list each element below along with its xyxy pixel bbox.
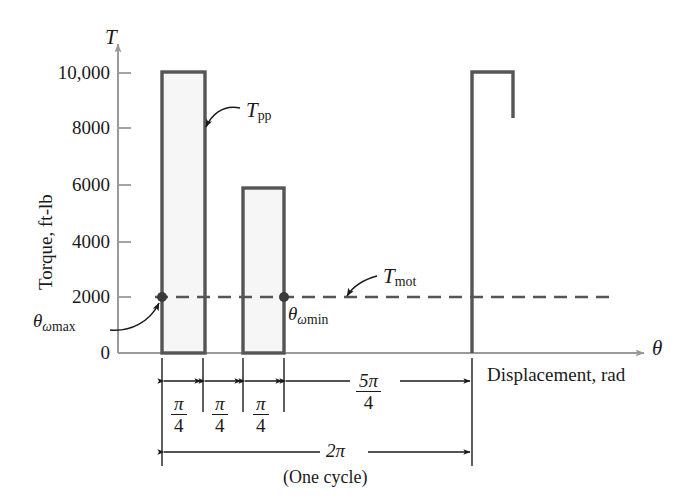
dim-label-seg3: π 4	[253, 394, 269, 436]
tpp-leader-arrow	[206, 107, 240, 127]
theta-omega-max-label: θωmax	[33, 311, 76, 334]
theta-wmax-theta: θ	[33, 310, 42, 331]
marker-theta-omega-min	[279, 292, 289, 302]
bar-pulse-2	[243, 188, 284, 353]
y-tick-label-2000: 2000	[18, 287, 110, 306]
dim-seg3-numerator: π	[253, 394, 269, 415]
theta-wmin-theta: θ	[288, 303, 297, 324]
dim-label-seg4: 5π 4	[356, 371, 381, 413]
theta-wmin-omega: ω	[297, 312, 307, 327]
bar-pulse-1	[162, 72, 205, 353]
tmot-label: Tmot	[383, 266, 416, 289]
marker-theta-omega-max	[157, 292, 167, 302]
y-tick-label-0: 0	[18, 343, 110, 362]
y-axis-symbol: T	[105, 27, 117, 48]
theta-wmin-sub: min	[307, 312, 328, 327]
dim-seg1-numerator: π	[171, 394, 187, 415]
tmot-symbol: T	[383, 264, 395, 288]
tmot-leader-arrow	[347, 276, 377, 296]
tpp-subscript: pp	[258, 108, 272, 123]
dim-label-seg2: π 4	[212, 394, 228, 436]
bar-pulse-3-partial	[472, 72, 513, 353]
x-axis-title: Displacement, rad	[487, 365, 625, 384]
tpp-label: Tpp	[246, 100, 272, 123]
dim-label-seg1: π 4	[171, 394, 187, 436]
dim-seg1-denominator: 4	[171, 415, 187, 435]
dim-label-one-cycle: (One cycle)	[283, 468, 367, 486]
y-tick-label-10000: 10,000	[18, 63, 110, 82]
dim-label-total: 2π	[326, 441, 345, 460]
tpp-symbol: T	[246, 98, 258, 122]
dim-seg2-denominator: 4	[212, 415, 228, 435]
dim-seg3-denominator: 4	[253, 415, 269, 435]
dimension-extension-lines	[162, 358, 472, 466]
torque-displacement-figure: T θ Torque, ft-lb Displacement, rad 10,0…	[0, 0, 686, 502]
y-tick-label-6000: 6000	[18, 175, 110, 194]
theta-wmax-sub: max	[52, 319, 76, 334]
x-axis-symbol: θ	[652, 338, 662, 359]
dim-seg4-numerator: 5π	[356, 371, 381, 392]
y-tick-label-8000: 8000	[18, 118, 110, 137]
y-tick-label-4000: 4000	[18, 232, 110, 251]
theta-omega-min-label: θωmin	[288, 304, 328, 327]
theta-wmax-omega: ω	[42, 319, 52, 334]
dim-seg4-denominator: 4	[356, 392, 381, 412]
y-axis-ticks	[118, 73, 131, 353]
tmot-subscript: mot	[395, 274, 417, 289]
dim-seg2-numerator: π	[212, 394, 228, 415]
